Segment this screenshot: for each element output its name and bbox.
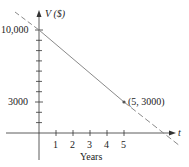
x-axis-title: Years [80,152,102,162]
data-point [122,100,125,103]
value-line [39,30,124,102]
dashed-extension-right [124,102,180,146]
t-axis-label: t [178,128,181,138]
x-tick-1: 1 [53,140,58,150]
x-tick-5: 5 [121,140,126,150]
point-annotation: (5, 3000) [128,97,165,107]
x-tick-4: 4 [104,140,109,150]
v-axis-arrow-icon [37,10,42,17]
v-axis-label: V ($) [45,9,65,19]
t-axis-arrow-icon [169,131,176,136]
y-tick-3000: 3000 [8,97,28,107]
x-tick-2: 2 [70,140,75,150]
y-tick-10000: 10,000 [1,25,29,35]
x-tick-3: 3 [87,140,92,150]
